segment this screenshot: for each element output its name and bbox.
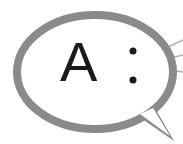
colon-top-dot — [130, 48, 137, 55]
colon-bottom-dot — [130, 77, 137, 84]
bubble-letter: A — [60, 34, 97, 90]
